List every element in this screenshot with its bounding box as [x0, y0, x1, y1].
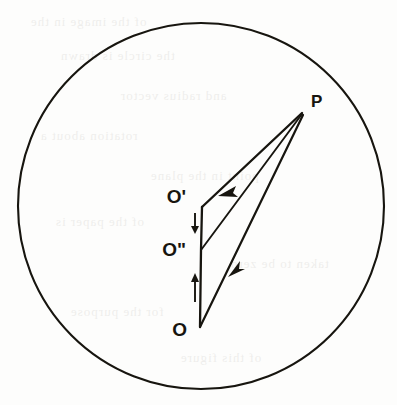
diagram-canvas: P O' O" O	[0, 0, 397, 405]
point-label-o: O	[172, 319, 187, 340]
segment-p-to-o	[200, 115, 303, 327]
point-label-odoubleprime: O"	[162, 239, 186, 260]
point-label-oprime: O'	[167, 186, 186, 207]
point-label-p: P	[311, 92, 322, 111]
field-circle	[18, 23, 384, 389]
segment-p-to-odouble	[201, 114, 302, 250]
figure-container: of the image in the the circle is drawn …	[0, 0, 397, 405]
down-tick-arrow-head	[191, 226, 199, 234]
segment-o-to-oprime-axis	[200, 207, 202, 327]
segment-p-to-oprime	[202, 113, 302, 207]
up-tick-arrow-head	[191, 273, 199, 282]
